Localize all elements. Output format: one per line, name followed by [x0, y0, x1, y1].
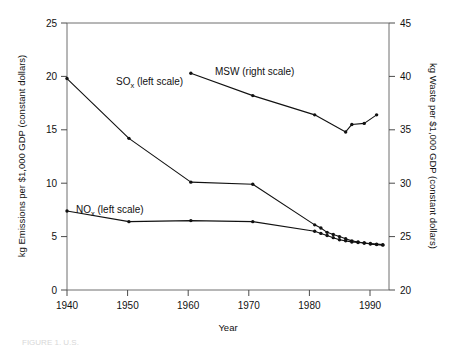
- data-point-marker: [189, 219, 192, 222]
- left-axis-title: kg Emissions per $1,000 GDP (constant do…: [16, 55, 27, 258]
- sox-series-label: SOx (left scale): [116, 76, 183, 90]
- data-point-marker: [363, 241, 366, 244]
- data-point-marker: [65, 77, 68, 80]
- data-point-marker: [356, 241, 359, 244]
- left-tick-label-25: 25: [46, 18, 58, 29]
- right-tick-label-25: 25: [400, 231, 412, 242]
- x-tick-label-1950: 1950: [116, 300, 139, 311]
- right-tick-label-35: 35: [400, 124, 412, 135]
- right-tick-label-40: 40: [400, 71, 412, 82]
- x-tick-label-1960: 1960: [177, 300, 200, 311]
- data-point-marker: [189, 72, 192, 75]
- msw-series-label: MSW (right scale): [215, 66, 294, 77]
- data-point-marker: [313, 113, 316, 116]
- right-tick-label-30: 30: [400, 178, 412, 189]
- x-tick-label-1970: 1970: [238, 300, 261, 311]
- x-tick-label-1980: 1980: [298, 300, 321, 311]
- x-axis-title: Year: [218, 322, 237, 333]
- x-tick-label-1990: 1990: [359, 300, 382, 311]
- data-point-marker: [251, 183, 254, 186]
- nox-series-label: NOx (left scale): [76, 204, 144, 218]
- data-point-marker: [350, 123, 353, 126]
- sox-label-suffix: (left scale): [134, 76, 183, 87]
- data-point-marker: [332, 233, 335, 236]
- data-point-marker: [381, 243, 384, 246]
- nox-label-suffix: (left scale): [95, 204, 144, 215]
- x-axis: 1940 1950 1960 1970 1980 1990: [56, 290, 382, 311]
- left-tick-label-15: 15: [46, 124, 58, 135]
- left-tick-label-10: 10: [46, 178, 58, 189]
- right-tick-label-45: 45: [400, 18, 412, 29]
- right-tick-label-20: 20: [400, 285, 412, 296]
- data-point-marker: [344, 239, 347, 242]
- series-line: [191, 73, 377, 132]
- data-point-marker: [325, 231, 328, 234]
- left-tick-label-5: 5: [51, 231, 57, 242]
- data-point-marker: [127, 220, 130, 223]
- right-axis: 45 40 35 30 25 20: [389, 18, 412, 296]
- series-line: [67, 211, 383, 245]
- data-point-marker: [127, 137, 130, 140]
- caption-strip: FIGURE 1. U.S.: [0, 338, 449, 348]
- series-annotations: SOx (left scale) NOx (left scale) MSW (r…: [76, 66, 294, 218]
- left-tick-label-20: 20: [46, 71, 58, 82]
- data-point-marker: [319, 232, 322, 235]
- series-msw: [189, 72, 378, 134]
- x-tick-label-1940: 1940: [56, 300, 79, 311]
- data-point-marker: [369, 242, 372, 245]
- data-point-marker: [344, 130, 347, 133]
- data-point-marker: [375, 113, 378, 116]
- left-tick-label-0: 0: [51, 285, 57, 296]
- data-point-marker: [338, 238, 341, 241]
- data-point-marker: [313, 223, 316, 226]
- left-axis: 25 20 15 10 5 0: [46, 18, 67, 296]
- data-point-marker: [251, 220, 254, 223]
- data-point-marker: [338, 235, 341, 238]
- data-point-marker: [313, 230, 316, 233]
- data-point-marker: [189, 180, 192, 183]
- data-point-marker: [251, 94, 254, 97]
- data-point-marker: [319, 226, 322, 229]
- emissions-waste-line-chart: 25 20 15 10 5 0 45 40 35 30 25 20: [0, 0, 449, 348]
- data-point-marker: [65, 209, 68, 212]
- series-layer: [65, 72, 384, 247]
- data-point-marker: [332, 236, 335, 239]
- figure-container: 25 20 15 10 5 0 45 40 35 30 25 20: [0, 0, 449, 348]
- data-point-marker: [350, 240, 353, 243]
- series-line: [67, 79, 383, 246]
- figure-caption: FIGURE 1. U.S.: [0, 338, 449, 348]
- data-point-marker: [375, 242, 378, 245]
- sox-label-main: SO: [116, 76, 131, 87]
- right-axis-title: kg Waste per $1,000 GDP (constant dollar…: [428, 63, 439, 249]
- nox-label-main: NO: [76, 204, 91, 215]
- data-point-marker: [325, 234, 328, 237]
- data-point-marker: [363, 122, 366, 125]
- plot-frame: [67, 23, 389, 290]
